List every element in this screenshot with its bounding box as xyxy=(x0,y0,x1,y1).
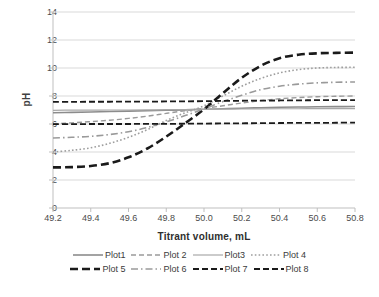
legend-label: Plot 5 xyxy=(102,265,125,274)
legend-item-plot-7[interactable]: Plot 7 xyxy=(193,264,248,274)
legend-key-dashed-black xyxy=(193,264,223,274)
plot-area xyxy=(0,0,379,220)
legend-row-2: Plot 5Plot 6Plot 7Plot 8 xyxy=(67,264,311,274)
legend-label: Plot 4 xyxy=(283,251,306,260)
legend-key-dashed-black xyxy=(254,264,284,274)
ph-titration-chart: pH 02468101214 49.249.449.649.850.050.25… xyxy=(0,0,379,297)
legend-key-dashdot-gray xyxy=(131,264,161,274)
legend-key-solid-gray xyxy=(73,250,103,260)
legend-key-dotted-gray xyxy=(251,250,281,260)
legend-label: Plot 6 xyxy=(163,265,186,274)
legend-label: Plot 2 xyxy=(163,251,186,260)
legend-item-plot-6[interactable]: Plot 6 xyxy=(131,264,186,274)
legend-label: Plot 7 xyxy=(225,265,248,274)
x-axis-title: Titrant volume, mL xyxy=(53,231,355,242)
legend-item-plot1[interactable]: Plot1 xyxy=(73,250,126,260)
legend-label: Plot 8 xyxy=(286,265,309,274)
legend-item-plot-5[interactable]: Plot 5 xyxy=(70,264,125,274)
legend-item-plot-4[interactable]: Plot 4 xyxy=(251,250,306,260)
legend-label: Plot3 xyxy=(225,251,246,260)
legend-item-plot-2[interactable]: Plot 2 xyxy=(131,250,186,260)
chart-legend: Plot1Plot 2Plot3Plot 4Plot 5Plot 6Plot 7… xyxy=(0,250,379,274)
legend-label: Plot1 xyxy=(105,251,126,260)
legend-item-plot-8[interactable]: Plot 8 xyxy=(254,264,309,274)
series-line-plot-7 xyxy=(53,100,355,102)
legend-item-plot3[interactable]: Plot3 xyxy=(193,250,246,260)
legend-key-solid-gray-thin xyxy=(193,250,223,260)
series-group xyxy=(53,53,355,168)
legend-key-dashed-gray xyxy=(131,250,161,260)
legend-row-1: Plot1Plot 2Plot3Plot 4 xyxy=(70,250,309,260)
legend-key-dashed-heavy-black xyxy=(70,264,100,274)
